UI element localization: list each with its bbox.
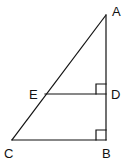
geometry-diagram: A B C D E (0, 0, 126, 164)
right-angle-marker-d (96, 84, 106, 94)
segment-ac (12, 15, 106, 140)
point-label-b: B (102, 146, 111, 161)
point-label-c: C (4, 146, 13, 161)
point-label-e: E (29, 87, 38, 102)
right-angle-marker-b (96, 130, 106, 140)
point-label-a: A (112, 4, 121, 19)
point-label-d: D (111, 87, 120, 102)
